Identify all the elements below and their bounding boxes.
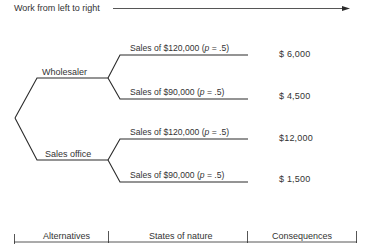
direction-arrow-icon (113, 6, 350, 11)
decision-tree-lines (0, 0, 369, 250)
probability-value: = .5) (205, 170, 225, 180)
instruction-text: Work from left to right (14, 3, 100, 13)
state-text: Sales of $90,000 ( (130, 87, 200, 97)
state-text: Sales of $120,000 ( (130, 43, 205, 53)
state-text: Sales of $120,000 ( (130, 127, 205, 137)
state-label: Sales of $120,000 (p = .5) (130, 43, 229, 53)
consequence-value: $12,000 (279, 133, 313, 143)
state-label: Sales of $90,000 (p = .5) (130, 170, 224, 180)
state-label: Sales of $120,000 (p = .5) (130, 127, 229, 137)
consequence-value: $ 4,500 (279, 91, 310, 101)
footer-label-alternatives: Alternatives (43, 231, 90, 241)
probability-value: = .5) (209, 127, 229, 137)
probability-value: = .5) (209, 43, 229, 53)
footer-label-states-of-nature: States of nature (149, 231, 213, 241)
footer-label-consequences: Consequences (272, 231, 332, 241)
alternative-label-wholesaler: Wholesaler (42, 67, 87, 77)
consequence-value: $ 6,000 (279, 49, 310, 59)
consequence-value: $ 1,500 (279, 174, 310, 184)
alternative-label-sales-office: Sales office (45, 149, 91, 159)
alternative-branch-wholesaler (15, 78, 108, 118)
state-label: Sales of $90,000 (p = .5) (130, 87, 224, 97)
state-text: Sales of $90,000 ( (130, 170, 200, 180)
probability-value: = .5) (205, 87, 225, 97)
